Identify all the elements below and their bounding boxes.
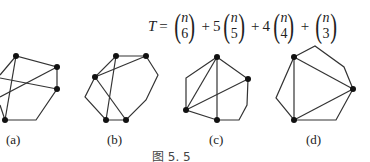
figure-label-a: (a) bbox=[6, 132, 20, 148]
figure-b bbox=[85, 56, 158, 120]
figure-c bbox=[186, 57, 248, 120]
figure-caption: 图 5. 5 bbox=[152, 147, 191, 162]
figure-d bbox=[276, 46, 353, 120]
figure-label-b: (b) bbox=[107, 132, 122, 148]
figure-label-d: (d) bbox=[306, 132, 321, 148]
figure-a bbox=[0, 56, 57, 120]
figure-label-c: (c) bbox=[209, 132, 223, 148]
